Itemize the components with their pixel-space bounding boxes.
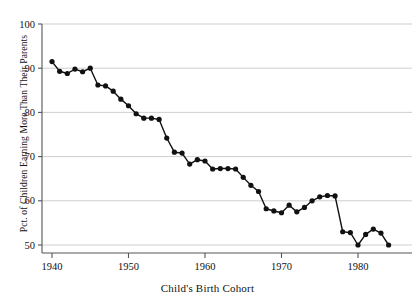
data-point: [111, 89, 116, 94]
data-point: [218, 166, 223, 171]
x-tick-label-1980: 1980: [348, 261, 369, 272]
data-point: [57, 69, 62, 74]
data-point: [279, 210, 284, 215]
data-point: [72, 66, 77, 71]
data-point: [95, 82, 100, 87]
data-point: [126, 103, 131, 108]
data-point: [378, 230, 383, 235]
data-point: [118, 97, 123, 102]
data-point: [65, 71, 70, 76]
data-point: [149, 116, 154, 121]
data-point: [80, 69, 85, 74]
data-point: [340, 229, 345, 234]
data-point: [202, 158, 207, 163]
data-point: [179, 150, 184, 155]
x-tick-label-1940: 1940: [42, 261, 63, 272]
data-point: [164, 135, 169, 140]
gridlines-group: [42, 24, 412, 245]
x-tick-label-1950: 1950: [118, 261, 139, 272]
data-point: [49, 59, 54, 64]
x-axis-title: Child's Birth Cohort: [0, 282, 415, 294]
data-point: [157, 117, 162, 122]
data-point: [88, 66, 93, 71]
data-point: [386, 242, 391, 247]
data-point: [294, 209, 299, 214]
data-point: [371, 226, 376, 231]
data-point: [332, 193, 337, 198]
data-point: [233, 166, 238, 171]
data-point: [264, 206, 269, 211]
data-point: [325, 193, 330, 198]
chart-figure: 5060708090100 19401950196019701980 Child…: [0, 0, 415, 308]
data-point: [103, 83, 108, 88]
data-point: [225, 166, 230, 171]
data-point: [271, 208, 276, 213]
data-point: [363, 232, 368, 237]
data-point: [302, 205, 307, 210]
line-chart-canvas: 5060708090100 19401950196019701980: [0, 0, 415, 308]
data-point: [134, 111, 139, 116]
data-point: [256, 189, 261, 194]
data-point: [348, 230, 353, 235]
data-point: [172, 150, 177, 155]
x-tick-label-1960: 1960: [195, 261, 216, 272]
data-point: [317, 194, 322, 199]
data-point: [195, 157, 200, 162]
series-line-path: [52, 62, 389, 245]
data-point: [355, 242, 360, 247]
data-point: [141, 116, 146, 121]
data-point: [241, 175, 246, 180]
data-point: [310, 198, 315, 203]
data-point: [187, 162, 192, 167]
data-point: [287, 203, 292, 208]
y-axis-title: Pct. of Children Earning More Than Their…: [18, 14, 29, 254]
x-tick-label-1970: 1970: [271, 261, 292, 272]
data-point: [248, 183, 253, 188]
axis-spines-group: [42, 24, 412, 253]
x-axis-ticks-group: 19401950196019701980: [42, 253, 369, 272]
data-point: [210, 166, 215, 171]
